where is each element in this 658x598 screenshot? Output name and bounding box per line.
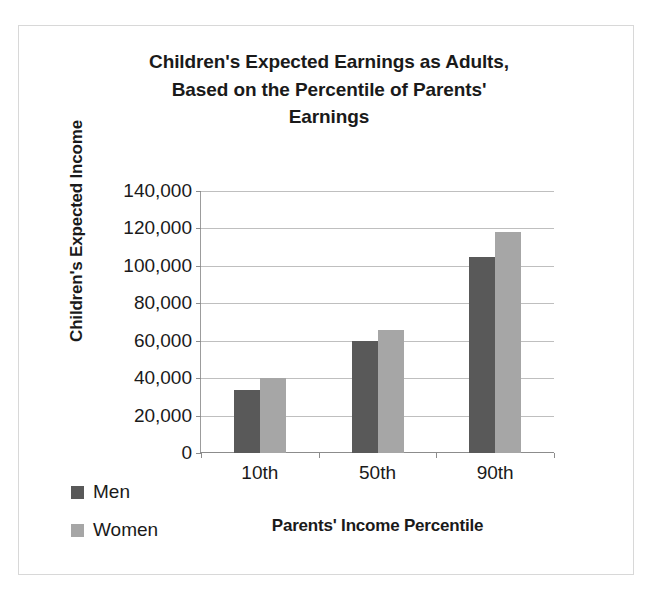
plot-area: 020,00040,00060,00080,000100,000120,0001…: [201, 191, 554, 453]
y-tick-mark: [196, 191, 201, 192]
y-tick-mark: [196, 228, 201, 229]
legend-swatch-icon: [71, 524, 84, 537]
bar-group: [352, 191, 404, 453]
chart-title-line-3: Earnings: [59, 103, 599, 131]
y-tick-label: 140,000: [72, 180, 192, 202]
chart-container: Children's Expected Earnings as Adults, …: [18, 25, 634, 575]
bar-men-90th[interactable]: [469, 257, 495, 454]
bar-women-10th[interactable]: [260, 378, 286, 453]
x-axis-title: Parents' Income Percentile: [201, 516, 554, 536]
y-tick-label: 60,000: [72, 330, 192, 352]
chart-title: Children's Expected Earnings as Adults, …: [59, 48, 599, 131]
bar-men-10th[interactable]: [234, 390, 260, 453]
legend-swatch-icon: [71, 486, 84, 499]
bar-women-50th[interactable]: [378, 330, 404, 454]
y-tick-mark: [196, 416, 201, 417]
legend-label: Women: [93, 519, 158, 541]
x-tick-label-50th: 50th: [359, 462, 396, 484]
bar-women-90th[interactable]: [495, 232, 521, 453]
x-tick-mark: [436, 453, 437, 458]
y-tick-mark: [196, 266, 201, 267]
y-tick-label: 100,000: [72, 255, 192, 277]
y-tick-mark: [196, 303, 201, 304]
x-tick-mark: [201, 453, 202, 458]
y-tick-label: 20,000: [72, 405, 192, 427]
y-tick-label: 120,000: [72, 217, 192, 239]
y-tick-label: 0: [72, 442, 192, 464]
y-tick-label: 40,000: [72, 367, 192, 389]
y-axis-line: [200, 191, 201, 453]
chart-title-line-2: Based on the Percentile of Parents': [59, 76, 599, 104]
y-tick-mark: [196, 378, 201, 379]
x-tick-label-90th: 90th: [477, 462, 514, 484]
y-tick-label: 80,000: [72, 292, 192, 314]
bar-men-50th[interactable]: [352, 341, 378, 453]
chart-title-line-1: Children's Expected Earnings as Adults,: [59, 48, 599, 76]
x-tick-label-10th: 10th: [241, 462, 278, 484]
chart-legend: MenWomen: [71, 481, 158, 557]
legend-label: Men: [93, 481, 130, 503]
bar-group: [234, 191, 286, 453]
bar-group: [469, 191, 521, 453]
legend-item-men[interactable]: Men: [71, 481, 158, 503]
y-tick-mark: [196, 341, 201, 342]
legend-item-women[interactable]: Women: [71, 519, 158, 541]
x-tick-mark: [319, 453, 320, 458]
x-tick-mark: [554, 453, 555, 458]
